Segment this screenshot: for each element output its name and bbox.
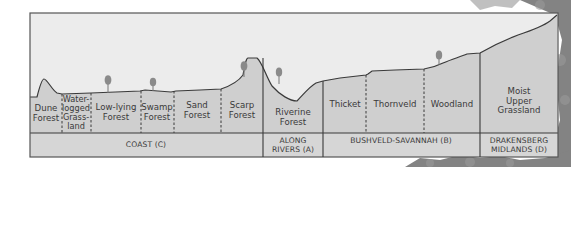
- zone-label-waterlogged-grassland: Water- logged Grass- land: [62, 95, 90, 131]
- zone-label-thicket: Thicket: [329, 100, 360, 110]
- region-label-bushveld-savannah: BUSHVELD-SAVANNAH (B): [350, 136, 452, 145]
- zone-label-low-lying-forest: Low-lying Forest: [96, 103, 137, 122]
- region-label-along-rivers: ALONG RIVERS (A): [272, 136, 314, 154]
- zone-label-thornveld: Thornveld: [374, 100, 417, 110]
- zone-label-riverine-forest: Riverine Forest: [275, 108, 310, 127]
- zone-label-swamp-forest: Swamp Forest: [141, 103, 173, 122]
- zone-label-woodland: Woodland: [431, 100, 474, 110]
- region-label-coast: COAST (C): [126, 140, 166, 149]
- zone-label-scarp-forest: Scarp Forest: [229, 101, 255, 120]
- region-label-drakensberg-midlands: DRAKENSBERG MIDLANDS (D): [490, 136, 549, 154]
- zone-label-sand-forest: Sand Forest: [184, 101, 210, 120]
- zone-label-moist-upper-grassland: Moist Upper Grassland: [498, 87, 541, 116]
- zone-label-dune-forest: Dune Forest: [33, 104, 59, 123]
